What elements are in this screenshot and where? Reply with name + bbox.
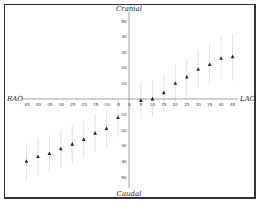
y-tick-label: 30 — [121, 50, 127, 55]
x-tick-label: 10 — [150, 102, 156, 107]
triangle-marker-icon — [231, 55, 235, 59]
x-tick-label: 15 — [161, 102, 167, 107]
y-axis-top-label: Cranial — [116, 5, 142, 13]
y-tick-label: -50 — [120, 175, 127, 180]
triangle-marker-icon — [151, 97, 155, 101]
y-tick-label: -20 — [120, 128, 127, 133]
x-axis-left-label: RAO — [6, 95, 23, 103]
triangle-marker-icon — [48, 151, 52, 155]
x-tick-label: 20 — [173, 102, 179, 107]
axes — [22, 12, 238, 188]
scatter-chart: -45-40-35-30-25-20-15-10-505101520253035… — [0, 0, 264, 207]
x-tick-label: -30 — [58, 102, 65, 107]
triangle-marker-icon — [185, 75, 189, 79]
triangle-marker-icon — [93, 131, 97, 135]
y-tick-label: 10 — [121, 81, 127, 86]
x-tick-label: 25 — [184, 102, 190, 107]
y-tick-label: 20 — [121, 65, 127, 70]
triangle-marker-icon — [82, 137, 86, 141]
x-tick-label: -25 — [69, 102, 76, 107]
x-tick-labels: -45-40-35-30-25-20-15-10-505101520253035… — [23, 102, 235, 107]
y-tick-label: -30 — [120, 143, 127, 148]
x-tick-label: -35 — [46, 102, 53, 107]
x-axis-right-label: LAO — [239, 95, 256, 103]
x-tick-label: 35 — [207, 102, 213, 107]
triangle-marker-icon — [208, 62, 212, 66]
triangle-marker-icon — [174, 81, 178, 85]
y-tick-label: -10 — [120, 112, 127, 117]
triangle-marker-icon — [105, 126, 109, 130]
x-tick-label: -45 — [23, 102, 30, 107]
y-tick-label: 50 — [121, 19, 127, 24]
x-tick-label: 5 — [140, 102, 143, 107]
triangle-marker-icon — [196, 67, 200, 71]
data-markers — [25, 55, 235, 163]
triangle-marker-icon — [59, 147, 63, 151]
x-tick-label: -20 — [80, 102, 87, 107]
x-tick-label: -40 — [35, 102, 42, 107]
triangle-marker-icon — [36, 155, 40, 159]
x-tick-label: 45 — [230, 102, 236, 107]
triangle-marker-icon — [162, 91, 166, 95]
triangle-marker-icon — [25, 159, 29, 163]
x-tick-label: -15 — [92, 102, 99, 107]
x-tick-label: 30 — [196, 102, 202, 107]
x-tick-label: 0 — [128, 102, 131, 107]
y-tick-label: -40 — [120, 159, 127, 164]
triangle-marker-icon — [70, 142, 74, 146]
y-tick-label: 40 — [121, 34, 127, 39]
x-tick-label: 40 — [219, 102, 225, 107]
x-tick-label: -10 — [103, 102, 110, 107]
x-tick-label: -5 — [116, 102, 120, 107]
y-axis-bottom-label: Caudal — [117, 190, 142, 198]
triangle-marker-icon — [219, 56, 223, 60]
